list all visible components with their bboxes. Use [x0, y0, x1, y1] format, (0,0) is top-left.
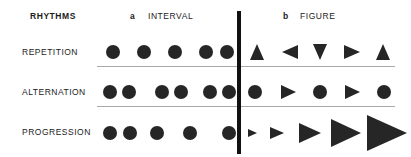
shape-plot-area: [0, 0, 411, 157]
circle-shape: [313, 85, 327, 99]
triangle-right-shape: [281, 85, 296, 99]
triangle-right-shape: [345, 85, 360, 99]
circle-shape: [103, 85, 117, 99]
circle-shape: [123, 126, 137, 140]
circle-shape: [168, 45, 182, 59]
triangle-right-shape: [270, 127, 284, 139]
circle-shape: [103, 126, 117, 140]
triangle-left-shape: [282, 45, 298, 59]
triangle-down-shape: [313, 44, 327, 60]
circle-shape: [122, 85, 136, 99]
circle-shape: [106, 45, 120, 59]
triangle-right-shape: [299, 123, 321, 143]
circle-shape: [248, 85, 262, 99]
circle-shape: [174, 85, 188, 99]
circle-shape: [155, 85, 169, 99]
triangle-up-shape: [376, 44, 390, 60]
triangle-right-shape: [344, 45, 360, 59]
circle-shape: [377, 85, 391, 99]
circle-shape: [222, 126, 236, 140]
triangle-right-shape: [331, 119, 361, 147]
circle-shape: [150, 126, 164, 140]
circle-shape: [220, 45, 234, 59]
circle-shape: [203, 85, 217, 99]
circle-shape: [183, 126, 197, 140]
circle-shape: [199, 45, 213, 59]
rhythms-diagram: RHYTHMS a INTERVAL b FIGURE REPETITION A…: [0, 0, 411, 157]
circle-shape: [222, 85, 236, 99]
triangle-right-shape: [367, 115, 407, 151]
circle-shape: [137, 45, 151, 59]
triangle-up-shape: [250, 44, 264, 60]
triangle-right-shape: [248, 129, 257, 137]
